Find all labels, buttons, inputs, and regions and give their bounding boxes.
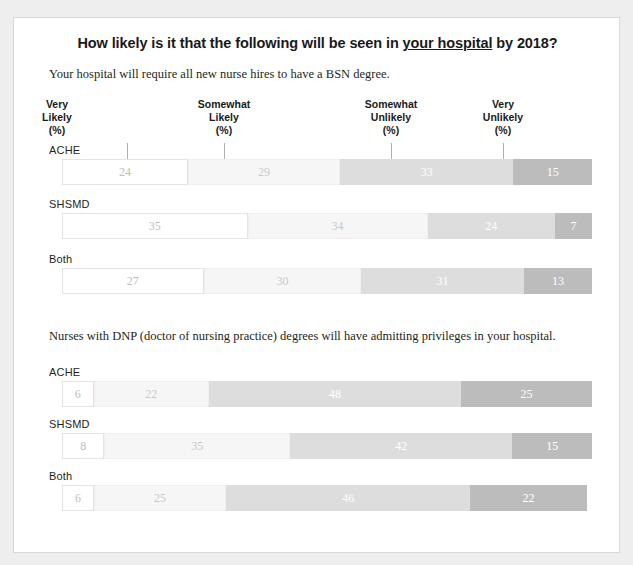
colhead-line1: Somewhat — [169, 98, 279, 111]
colhead-line3: (%) — [448, 124, 558, 137]
colhead-line2: Unlikely — [448, 111, 558, 124]
colhead-line2: Likely — [169, 111, 279, 124]
survey-chart-card: How likely is it that the following will… — [13, 17, 620, 553]
bar-segment-very-unlikely[interactable]: 25 — [461, 381, 592, 407]
column-headers: Very Likely (%) Somewhat Likely (%) Some… — [49, 98, 586, 148]
bar-segment-somewhat-unlikely[interactable]: 46 — [226, 485, 470, 511]
bar-segment-very-likely[interactable]: 35 — [62, 213, 248, 239]
bar-segment-somewhat-likely[interactable]: 29 — [188, 159, 340, 185]
bar-segment-very-likely[interactable]: 6 — [62, 381, 94, 407]
group-subtitle-1: Your hospital will require all new nurse… — [49, 67, 390, 82]
bar-segment-very-unlikely[interactable]: 15 — [513, 159, 592, 185]
stacked-bar: 6 22 48 25 — [62, 381, 592, 407]
bar-segment-somewhat-likely[interactable]: 30 — [204, 268, 361, 294]
colhead-line1: Somewhat — [336, 98, 446, 111]
row-label: ACHE — [49, 366, 80, 378]
colhead-line3: (%) — [336, 124, 446, 137]
bar-segment-somewhat-likely[interactable]: 22 — [94, 381, 209, 407]
bar-segment-somewhat-unlikely[interactable]: 48 — [209, 381, 461, 407]
stacked-bar: 35 34 24 7 — [62, 213, 592, 239]
row-label: Both — [49, 253, 72, 265]
bar-segment-very-likely[interactable]: 6 — [62, 485, 94, 511]
stacked-bar: 6 25 46 22 — [62, 485, 592, 511]
bar-segment-very-unlikely[interactable]: 22 — [470, 485, 587, 511]
row-label: ACHE — [49, 144, 80, 156]
bar-segment-somewhat-unlikely[interactable]: 42 — [290, 433, 513, 459]
bar-segment-very-unlikely[interactable]: 15 — [512, 433, 592, 459]
bar-segment-somewhat-likely[interactable]: 25 — [94, 485, 227, 511]
colhead-line1: Very — [448, 98, 558, 111]
group-subtitle-2: Nurses with DNP (doctor of nursing pract… — [49, 329, 556, 344]
bar-segment-very-unlikely[interactable]: 7 — [555, 213, 592, 239]
colhead-line3: (%) — [169, 124, 279, 137]
bar-segment-very-unlikely[interactable]: 13 — [524, 268, 592, 294]
bar-segment-very-likely[interactable]: 24 — [62, 159, 188, 185]
stacked-bar: 27 30 31 13 — [62, 268, 592, 294]
bar-segment-somewhat-likely[interactable]: 35 — [104, 433, 290, 459]
chart-inner: How likely is it that the following will… — [14, 18, 619, 552]
colhead-line1: Very — [2, 98, 112, 111]
colhead-line2: Unlikely — [336, 111, 446, 124]
column-header-somewhat-unlikely: Somewhat Unlikely (%) — [336, 98, 446, 137]
stacked-bar: 8 35 42 15 — [62, 433, 592, 459]
bar-segment-somewhat-unlikely[interactable]: 33 — [340, 159, 513, 185]
colhead-line3: (%) — [2, 124, 112, 137]
column-header-very-likely: Very Likely (%) — [2, 98, 112, 137]
title-before: How likely is it that the following will… — [77, 35, 402, 51]
bar-segment-very-likely[interactable]: 8 — [62, 433, 104, 459]
stacked-bar: 24 29 33 15 — [62, 159, 592, 185]
title-after: by 2018? — [492, 35, 557, 51]
page-title: How likely is it that the following will… — [14, 35, 621, 51]
bar-segment-somewhat-unlikely[interactable]: 24 — [428, 213, 555, 239]
bar-segment-somewhat-unlikely[interactable]: 31 — [361, 268, 524, 294]
row-label: SHSMD — [49, 198, 90, 210]
row-label: Both — [49, 470, 72, 482]
bar-segment-somewhat-likely[interactable]: 34 — [248, 213, 428, 239]
colhead-line2: Likely — [2, 111, 112, 124]
title-underlined: your hospital — [403, 35, 493, 51]
bar-segment-very-likely[interactable]: 27 — [62, 268, 204, 294]
row-label: SHSMD — [49, 418, 90, 430]
column-header-very-unlikely: Very Unlikely (%) — [448, 98, 558, 137]
column-header-somewhat-likely: Somewhat Likely (%) — [169, 98, 279, 137]
